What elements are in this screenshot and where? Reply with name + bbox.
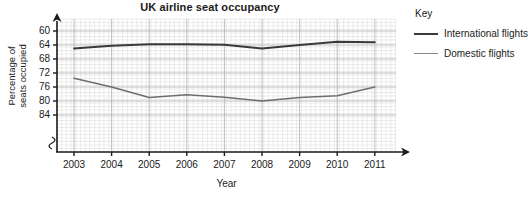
legend-item-domestic: Domestic flights: [414, 48, 528, 59]
x-tick-label: 2005: [129, 160, 169, 170]
legend-label-international: International flights: [444, 28, 528, 39]
legend-line-icon-domestic: [414, 53, 438, 54]
x-tick-label: 2003: [54, 160, 94, 170]
x-tick-label: 2009: [280, 160, 320, 170]
x-tick-label: 2011: [355, 160, 395, 170]
y-tick-label: 72: [24, 68, 50, 78]
x-tick-label: 2006: [167, 160, 207, 170]
y-tick-label: 60: [24, 26, 50, 36]
legend-line-icon-international: [414, 33, 438, 35]
legend: Key International flights Domestic fligh…: [414, 8, 528, 68]
y-tick-label: 76: [24, 82, 50, 92]
chart-title: UK airline seat occupancy: [0, 1, 420, 13]
x-axis-title: Year: [197, 178, 257, 189]
y-tick-label: 64: [24, 40, 50, 50]
axis-break-icon: [49, 137, 55, 149]
legend-item-international: International flights: [414, 28, 528, 39]
y-tick-label: 80: [24, 96, 50, 106]
legend-title: Key: [414, 8, 528, 19]
y-tick-label: 84: [24, 110, 50, 120]
x-tick-label: 2010: [317, 160, 357, 170]
y-tick-label: 68: [24, 54, 50, 64]
x-tick-label: 2004: [92, 160, 132, 170]
x-tick-label: 2008: [242, 160, 282, 170]
chart-container: UK airline seat occupancy Percentage of …: [0, 0, 528, 200]
legend-label-domestic: Domestic flights: [444, 48, 515, 59]
x-tick-label: 2007: [204, 160, 244, 170]
